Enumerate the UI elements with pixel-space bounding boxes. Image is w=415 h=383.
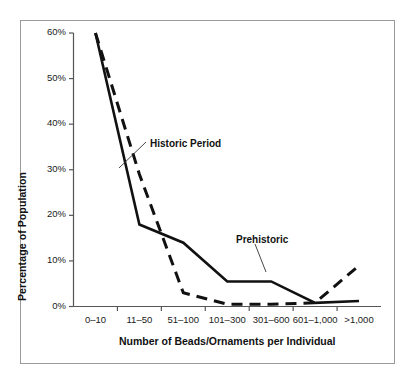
x-tick-label: >1,000: [332, 314, 386, 325]
leader-line-prehistoric: [255, 244, 266, 272]
y-tick-label: 10%: [22, 254, 66, 265]
x-axis-title: Number of Beads/Ornaments per Individual: [74, 335, 382, 347]
y-tick-label: 20%: [22, 208, 66, 219]
y-tick-label: 50%: [22, 72, 66, 83]
y-tick-label: 60%: [22, 26, 66, 37]
annotation-label-prehistoric: Prehistoric: [236, 234, 288, 245]
annotation-label-historic-period: Historic Period: [150, 138, 221, 149]
y-tick-label: 40%: [22, 117, 66, 128]
y-axis-title: Percentage of Population: [16, 172, 28, 301]
figure-container: Percentage of Population Number of Beads…: [0, 0, 415, 383]
y-axis-ticks: [69, 33, 74, 307]
x-axis-ticks: [117, 307, 337, 312]
y-tick-label: 0%: [22, 300, 66, 311]
y-tick-label: 30%: [22, 163, 66, 174]
chart-plot-area: [0, 0, 415, 383]
series-line-historic-period: [95, 33, 359, 304]
series-line-prehistoric: [95, 33, 359, 303]
